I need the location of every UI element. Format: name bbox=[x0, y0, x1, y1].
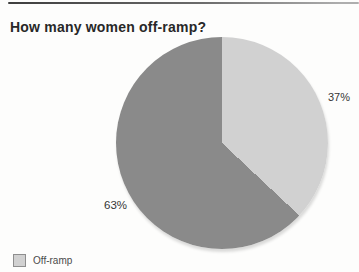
chart-title: How many women off-ramp? bbox=[10, 19, 206, 35]
legend-swatch-offramp bbox=[13, 254, 26, 267]
slice-label-remainder: 63% bbox=[104, 199, 127, 211]
legend-label-offramp: Off-ramp bbox=[33, 255, 72, 266]
legend: Off-ramp bbox=[13, 254, 72, 267]
slice-label-offramp: 37% bbox=[328, 91, 350, 103]
report-page: How many women off-ramp? 37% 63% Off-ram… bbox=[0, 0, 359, 272]
pie-chart bbox=[116, 37, 328, 249]
top-divider-rule bbox=[8, 2, 359, 4]
